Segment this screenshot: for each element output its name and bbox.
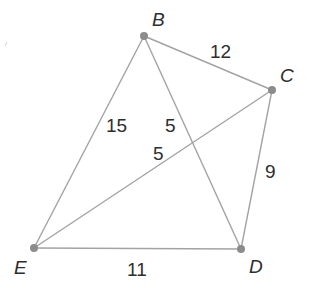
edge-weight-b-c: 12 (210, 41, 231, 62)
edge-b-c (144, 36, 272, 90)
vertex-label-e: E (14, 257, 27, 278)
vertex-b (140, 32, 148, 40)
stray-mark (5, 42, 7, 46)
edge-weight-c-d: 9 (265, 161, 276, 182)
edge-b-e (34, 36, 144, 248)
vertex-d (237, 245, 245, 253)
edge-weight-c-e: 5 (153, 143, 164, 164)
edge-c-e (34, 90, 272, 248)
edge-weight-b-e: 15 (106, 115, 127, 136)
edge-weight-b-d: 5 (165, 115, 176, 136)
edge-labels: 12 15 5 5 9 11 (106, 41, 276, 280)
edge-weight-e-d: 11 (127, 259, 147, 280)
vertex-e (30, 244, 38, 252)
vertex-label-c: C (280, 65, 294, 86)
vertex-c (268, 86, 276, 94)
vertex-label-b: B (152, 9, 165, 30)
edge-e-d (34, 248, 241, 249)
vertex-label-d: D (249, 256, 263, 277)
graph-diagram: B C D E 12 15 5 5 9 11 (0, 0, 314, 297)
